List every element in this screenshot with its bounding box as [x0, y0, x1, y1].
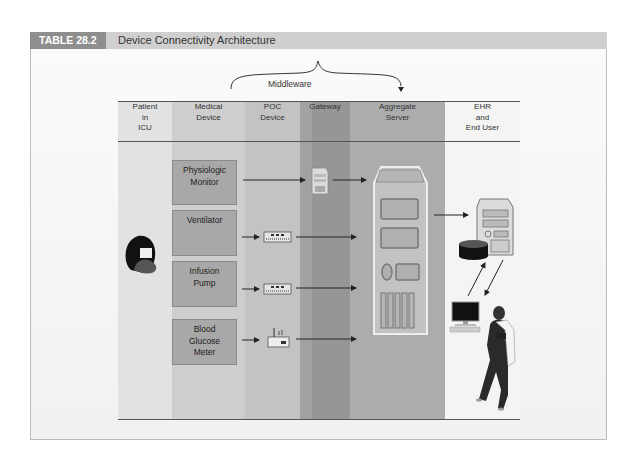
aggregate-server-icon — [374, 167, 427, 334]
network-hub-icon — [264, 284, 291, 294]
patient-icon — [126, 236, 157, 274]
computer-workstation-icon — [450, 302, 480, 332]
network-hub-icon — [264, 232, 291, 242]
clinician-icon — [476, 306, 515, 411]
wireless-router-icon — [268, 328, 289, 347]
diagram-graphics — [0, 0, 632, 470]
database-icon — [459, 240, 488, 260]
gateway-server-icon — [312, 168, 328, 194]
